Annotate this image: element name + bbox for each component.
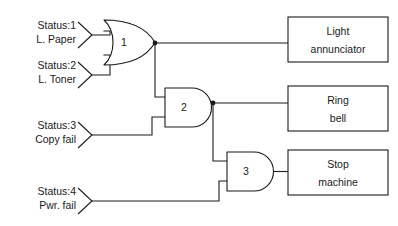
input-1-status: Status:1: [37, 19, 76, 31]
output-box-light-annunciator[interactable]: [288, 17, 388, 62]
output-box-stop-machine[interactable]: [288, 150, 388, 195]
wire-input3-to-gate2: [92, 117, 165, 135]
junction-dot-gate2-output: [211, 101, 216, 106]
gate-1-label: 1: [121, 36, 127, 48]
wire-gate1-to-gate2: [155, 43, 165, 97]
wire-input1-to-gate1: [92, 31, 110, 35]
output-1-line2: annunciator: [311, 43, 366, 55]
junction-dot-gate1-output: [153, 41, 158, 46]
input-4-name: Pwr. fail: [39, 199, 76, 211]
wire-gate2-to-gate3: [213, 103, 227, 161]
output-3-line2: machine: [318, 176, 358, 188]
logic-diagram-canvas: 1 2 3 Status:1 L. Paper Status:2 L. Tone…: [0, 0, 398, 226]
output-3-line1: Stop: [327, 158, 349, 170]
gate-2-label: 2: [181, 101, 187, 113]
or-gate-1[interactable]: [104, 20, 155, 65]
logic-diagram-svg: 1 2 3 Status:1 L. Paper Status:2 L. Tone…: [0, 0, 398, 226]
input-2-status: Status:2: [37, 59, 76, 71]
and-gate-3[interactable]: [227, 152, 274, 191]
output-2-line2: bell: [330, 112, 346, 124]
output-2-line1: Ring: [327, 94, 349, 106]
input-flag-3: [78, 122, 92, 148]
output-box-ring-bell[interactable]: [288, 86, 388, 131]
input-2-name: L. Toner: [38, 73, 76, 85]
input-flag-1: [78, 22, 92, 48]
and-gate-2[interactable]: [165, 88, 212, 127]
input-flag-2: [78, 62, 92, 88]
input-flag-4: [78, 188, 92, 214]
gate-3-label: 3: [243, 165, 249, 177]
input-3-status: Status:3: [37, 119, 76, 131]
wire-input4-to-gate3: [92, 181, 227, 201]
input-1-name: L. Paper: [36, 33, 76, 45]
output-1-line1: Light: [327, 25, 350, 37]
input-4-status: Status:4: [37, 185, 76, 197]
input-3-name: Copy fail: [35, 133, 76, 145]
